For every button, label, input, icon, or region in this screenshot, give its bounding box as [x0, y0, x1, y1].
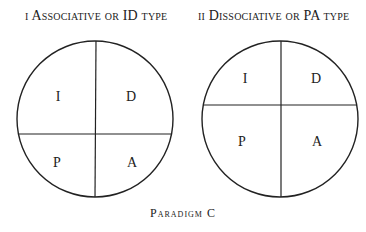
paradigm-diagrams: I D P A I D P A: [0, 0, 366, 232]
figure-caption: Paradigm C: [0, 206, 366, 221]
left-circle-diagram: I D P A: [17, 41, 173, 197]
right-quadrant-a: A: [312, 134, 323, 149]
left-quadrant-i: I: [56, 89, 61, 104]
right-circle-diagram: I D P A: [202, 41, 358, 197]
left-quadrant-d: D: [126, 89, 136, 104]
left-quadrant-a: A: [127, 155, 138, 170]
left-quadrant-p: P: [53, 155, 61, 170]
left-vertical-divider: [95, 41, 96, 197]
right-quadrant-i: I: [243, 71, 248, 86]
right-quadrant-p: P: [238, 134, 246, 149]
right-circle: [202, 41, 358, 197]
right-quadrant-d: D: [311, 71, 321, 86]
